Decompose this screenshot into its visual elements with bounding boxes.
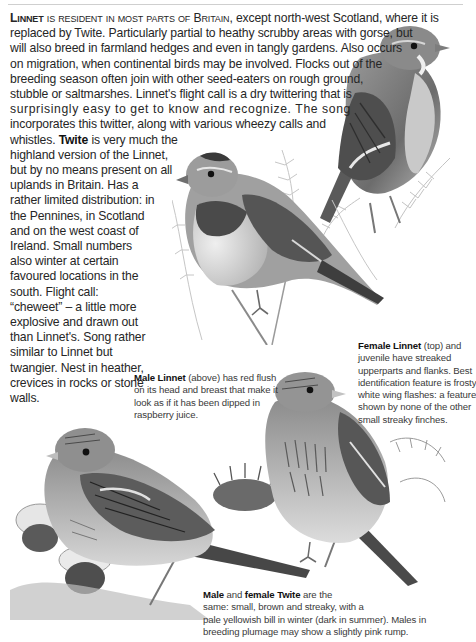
caption-twite-pair: Male and female Twite are the same: smal… <box>203 589 426 638</box>
twite-line: and on the west coast of <box>10 224 178 239</box>
twite-line: similar to Linnet but <box>10 345 178 360</box>
caption-line: Male and female Twite are the <box>203 589 426 601</box>
intro-line: breeding season often join with other se… <box>10 72 439 87</box>
twite-line: “cheweet” – a little more <box>10 300 178 315</box>
twite-paragraph: whistles. Twite is very much the highlan… <box>10 133 178 407</box>
twite-line-1: whistles. Twite is very much the <box>10 133 178 148</box>
caption-text: (above) has red flush <box>186 372 277 383</box>
caption-line: white wing flashes: a feature <box>358 389 476 401</box>
caption-line: on its head and breast that make it <box>134 384 278 396</box>
twite-line: south. Flight call: <box>10 285 178 300</box>
lead-word-linnet: Linnet <box>10 11 44 25</box>
caption-line: raspberry juice. <box>134 409 278 421</box>
intro-line-1-rest: except north-west Scotland, where it is <box>236 11 439 25</box>
caption-text: (top) and <box>421 340 461 351</box>
twite-line: highland version of the Linnet, <box>10 148 178 163</box>
male-linnet-illustration <box>172 140 392 345</box>
twite-line-1-pre: whistles. <box>10 133 55 147</box>
intro-line: replaced by Twite. Particularly partial … <box>10 26 439 41</box>
caption-line: juvenile have streaked <box>358 352 476 364</box>
intro-line: surprisingly easy to get to know and rec… <box>10 102 439 117</box>
intro-line: stubble or saltmarshes. Linnet's flight … <box>10 87 439 102</box>
twite-line: also winter at certain <box>10 254 178 269</box>
intro-paragraph: Linnet is resident in most parts of Brit… <box>10 11 439 133</box>
caption-text: and <box>224 589 245 600</box>
intro-line: incorporates this twitter, along with va… <box>10 117 439 132</box>
intro-line-1: Linnet is resident in most parts of Brit… <box>10 11 439 26</box>
caption-line: shown by none of the other <box>358 401 476 413</box>
twite-line: Ireland. Small numbers <box>10 239 178 254</box>
caption-bold: female Twite <box>245 589 301 600</box>
caption-line: look as if it has been dipped in <box>134 397 278 409</box>
top-rule-divider <box>8 4 463 5</box>
twite-bold-word: Twite <box>59 133 89 147</box>
caption-line: identification feature is frosty <box>358 377 476 389</box>
twite-line: rather limited distribution: in <box>10 193 178 208</box>
caption-line: small streaky finches. <box>358 414 476 426</box>
caption-line: same: small, brown and streaky, with a <box>203 601 426 613</box>
caption-female-linnet: Female Linnet (top) and juvenile have st… <box>358 340 476 426</box>
caption-bold: Male <box>203 589 224 600</box>
twite-line: but by no means present on all <box>10 163 178 178</box>
twite-line: explosive and drawn out <box>10 315 178 330</box>
caption-line: Female Linnet (top) and <box>358 340 476 352</box>
intro-line: on migration, when continental birds may… <box>10 57 439 72</box>
caption-text: are the <box>300 589 332 600</box>
twite-line-1-post: is very much the <box>91 133 177 147</box>
lead-britain: Britain, <box>193 11 232 25</box>
twite-line: favoured locations in the <box>10 269 178 284</box>
caption-line: breeding plumage may show a slightly pin… <box>203 626 426 638</box>
caption-male-linnet: Male Linnet (above) has red flush on its… <box>134 372 278 421</box>
caption-bold: Male Linnet <box>134 372 186 383</box>
intro-line: will also breed in farmland hedges and e… <box>10 41 439 56</box>
twite-line: uplands in Britain. Has a <box>10 178 178 193</box>
lead-smallcaps: is resident in most parts of <box>47 11 190 25</box>
caption-line: Male Linnet (above) has red flush <box>134 372 278 384</box>
twite-line: than Linnet's. Song rather <box>10 330 178 345</box>
caption-line: pale yellowish bill in winter (dark in s… <box>203 614 426 626</box>
twite-line: the Pennines, in Scotland <box>10 209 178 224</box>
caption-bold: Female Linnet <box>358 340 421 351</box>
caption-line: upperparts and flanks. Best <box>358 365 476 377</box>
